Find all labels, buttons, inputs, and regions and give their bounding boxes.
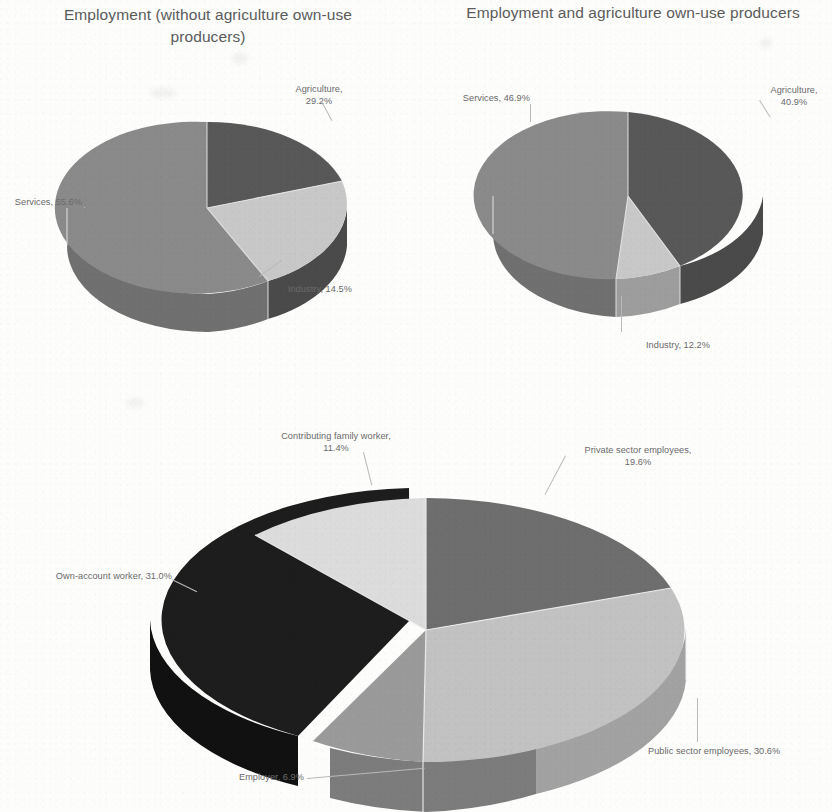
chart-title-employment-without-own-use: Employment (without agriculture own-use … (38, 4, 378, 49)
label-services-1: Services, 55.6% (0, 196, 82, 208)
chart-panel-employment-and-own-use: Employment and agriculture own-use produ… (416, 0, 832, 380)
pie-chart-status-in-employment (118, 458, 738, 788)
leader-services-1 (84, 207, 85, 208)
label-industry-2: Industry, 12.2% (646, 339, 766, 351)
label-industry-1: Industry, 14.5% (288, 283, 398, 295)
label-public-sector-employees: Public sector employees, 30.6% (648, 745, 832, 757)
label-own-account-worker: Own-account worker, 31.0% (6, 570, 172, 582)
leader-public-sector-employees (697, 698, 698, 742)
pie-slices-2 (474, 111, 743, 279)
scan-smudge (150, 88, 176, 98)
chart-panel-employment-without-own-use: Employment (without agriculture own-use … (0, 0, 416, 380)
label-contributing-family-worker: Contributing family worker, 11.4% (256, 430, 416, 455)
chart-title-employment-and-own-use: Employment and agriculture own-use produ… (458, 2, 808, 24)
label-employer: Employer, 6.9% (170, 771, 304, 783)
label-services-2: Services, 46.9% (436, 92, 530, 104)
leader-industry-2 (621, 296, 622, 332)
chart-panel-status-in-employment: Contributing family worker, 11.4% Privat… (0, 400, 832, 812)
scan-smudge (232, 52, 248, 64)
scan-smudge (760, 38, 772, 48)
label-agriculture-2: Agriculture, 40.9% (754, 84, 832, 109)
scan-smudge (126, 398, 144, 408)
label-agriculture-1: Agriculture, 29.2% (276, 83, 362, 108)
leader-services-2 (530, 104, 531, 122)
slice-services-2 (474, 111, 628, 279)
label-private-sector-employees: Private sector employees, 19.6% (562, 444, 714, 469)
